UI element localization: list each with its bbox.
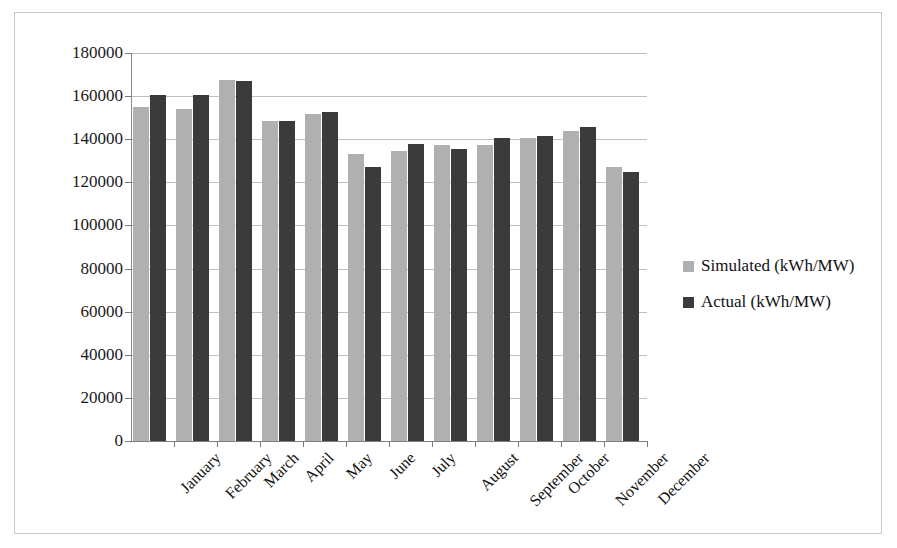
y-axis-tick-mark: [125, 225, 132, 226]
legend-item-actual: Actual (kWh/MW): [683, 292, 883, 312]
y-axis-tick-mark: [125, 398, 132, 399]
y-axis-tick-mark: [125, 96, 132, 97]
x-axis-tick-label: April: [301, 449, 338, 486]
y-axis-tick-mark: [125, 312, 132, 313]
y-axis-tick-mark: [125, 182, 132, 183]
x-axis-tick-label: January: [177, 449, 225, 497]
legend-label-actual: Actual (kWh/MW): [701, 292, 831, 312]
legend-swatch-actual-icon: [683, 297, 694, 308]
y-axis-tick-mark: [125, 269, 132, 270]
chart-container: 1800001600001400001200001000008000060000…: [14, 12, 882, 534]
y-axis-tick-mark: [125, 355, 132, 356]
legend-swatch-simulated-icon: [683, 261, 694, 272]
x-axis-tick-label: May: [343, 449, 376, 482]
y-axis-tick-mark: [125, 441, 132, 442]
legend-label-simulated: Simulated (kWh/MW): [701, 256, 854, 276]
legend-item-simulated: Simulated (kWh/MW): [683, 256, 883, 276]
y-axis-tick-mark: [125, 139, 132, 140]
x-axis-tick-label: August: [476, 449, 521, 494]
chart-legend: Simulated (kWh/MW) Actual (kWh/MW): [683, 256, 883, 328]
x-axis-tick-label: June: [386, 449, 419, 482]
y-axis-tick-mark: [125, 53, 132, 54]
x-axis-tick-label: July: [428, 449, 460, 481]
